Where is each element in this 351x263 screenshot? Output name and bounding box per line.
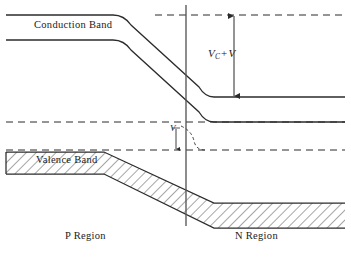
barrier-symbol-main: V	[208, 47, 215, 59]
band-diagram-figure: Conduction Band Valence Band P Region N …	[0, 0, 351, 263]
p-region-label: P Region	[65, 231, 106, 242]
applied-bias-label: V	[170, 124, 176, 133]
valence-band-label: Valence Band	[36, 155, 98, 166]
barrier-height-label: VC+V	[208, 48, 236, 61]
barrier-symbol-applied: V	[229, 47, 236, 59]
barrier-symbol-operator: +	[220, 47, 229, 59]
bias-annotation-hook	[181, 126, 205, 150]
n-region-label: N Region	[235, 231, 278, 242]
conduction-band-label: Conduction Band	[34, 20, 112, 31]
conduction-band-lower-curve	[6, 40, 345, 122]
